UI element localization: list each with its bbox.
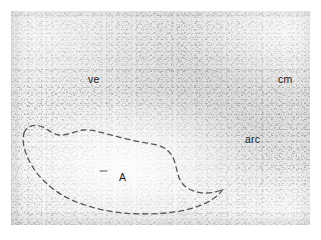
annotation-overlay: [11, 11, 310, 225]
label-a: A: [119, 172, 126, 183]
micrograph-figure: ve cm arc A: [0, 0, 321, 240]
label-arc: arc: [245, 134, 260, 145]
micrograph-plate: ve cm arc A: [11, 11, 310, 225]
label-cm: cm: [278, 74, 292, 85]
label-ve: ve: [88, 74, 100, 85]
dashed-region-outline: [23, 125, 223, 214]
